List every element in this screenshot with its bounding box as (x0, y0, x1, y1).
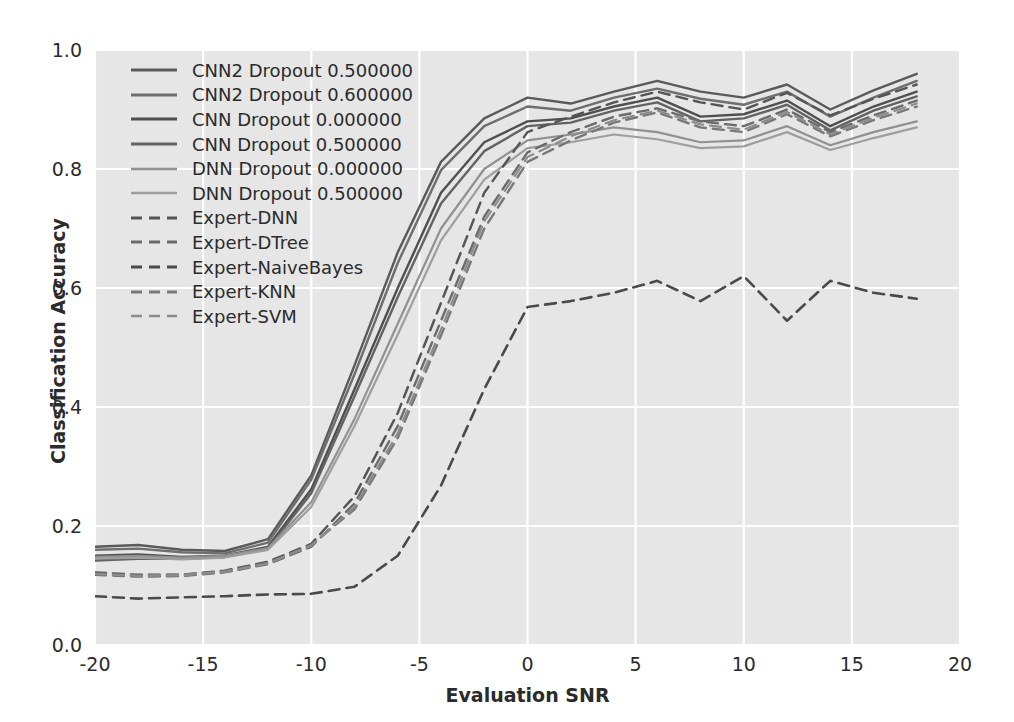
legend-label: Expert-DTree (192, 232, 309, 253)
legend-item[interactable]: Expert-DTree (130, 230, 413, 255)
legend-label: Expert-DNN (192, 207, 298, 228)
x-axis-label: Evaluation SNR (95, 684, 960, 706)
legend-line-swatch-icon (130, 112, 178, 126)
legend-item[interactable]: CNN Dropout 0.500000 (130, 132, 413, 157)
x-tick-label: -20 (79, 653, 110, 675)
legend-item[interactable]: CNN Dropout 0.000000 (130, 107, 413, 132)
legend-label: Expert-NaiveBayes (192, 257, 363, 278)
x-tick-label: 10 (732, 653, 756, 675)
legend-line-swatch-icon (130, 63, 178, 77)
legend-item[interactable]: DNN Dropout 0.500000 (130, 181, 413, 206)
legend-line-swatch-icon (130, 309, 178, 323)
legend-line-swatch-icon (130, 162, 178, 176)
legend-label: DNN Dropout 0.000000 (192, 158, 403, 179)
legend-item[interactable]: Expert-KNN (130, 279, 413, 304)
legend-label: CNN2 Dropout 0.500000 (192, 60, 413, 81)
x-tick-label: 15 (840, 653, 864, 675)
legend-line-swatch-icon (130, 186, 178, 200)
x-tick-label: 20 (948, 653, 972, 675)
legend-label: DNN Dropout 0.500000 (192, 183, 403, 204)
x-tick-label: -10 (296, 653, 327, 675)
legend-label: CNN Dropout 0.500000 (192, 134, 402, 155)
x-tick-label: 0 (521, 653, 533, 675)
legend-label: CNN Dropout 0.000000 (192, 109, 402, 130)
chart-figure: 0.00.20.40.60.81.0 -20-15-10-505101520 E… (0, 0, 1014, 722)
legend-line-swatch-icon (130, 235, 178, 249)
x-tick-label: 5 (630, 653, 642, 675)
legend-line-swatch-icon (130, 211, 178, 225)
x-tick-label: -15 (188, 653, 219, 675)
legend-label: CNN2 Dropout 0.600000 (192, 84, 413, 105)
x-tick-label: -5 (410, 653, 429, 675)
legend-line-swatch-icon (130, 285, 178, 299)
legend-line-swatch-icon (130, 137, 178, 151)
legend-line-swatch-icon (130, 260, 178, 274)
y-axis-label: Classification Accuracy (47, 44, 69, 639)
legend-label: Expert-SVM (192, 306, 297, 327)
legend-item[interactable]: Expert-SVM (130, 304, 413, 329)
legend-item[interactable]: CNN2 Dropout 0.500000 (130, 58, 413, 83)
legend-item[interactable]: Expert-NaiveBayes (130, 255, 413, 280)
chart-legend: CNN2 Dropout 0.500000CNN2 Dropout 0.6000… (130, 58, 413, 329)
legend-item[interactable]: Expert-DNN (130, 206, 413, 231)
legend-item[interactable]: CNN2 Dropout 0.600000 (130, 83, 413, 108)
legend-item[interactable]: DNN Dropout 0.000000 (130, 156, 413, 181)
legend-line-swatch-icon (130, 88, 178, 102)
legend-label: Expert-KNN (192, 281, 296, 302)
